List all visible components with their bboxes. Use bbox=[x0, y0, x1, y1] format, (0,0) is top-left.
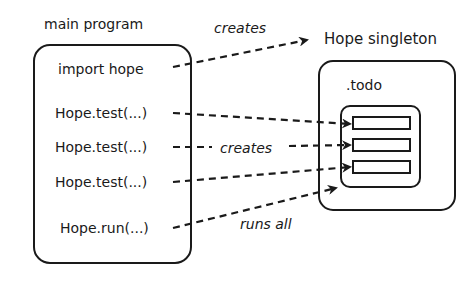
code-line-run: Hope.run(...) bbox=[60, 220, 149, 236]
singleton-title: Hope singleton bbox=[324, 31, 437, 47]
arrow-import-creates bbox=[173, 40, 307, 67]
arrow-test-2b bbox=[289, 145, 350, 146]
todo-label: .todo bbox=[346, 77, 382, 93]
todo-item-3 bbox=[353, 161, 410, 173]
todo-item-2 bbox=[353, 139, 410, 151]
todo-item-1 bbox=[353, 117, 410, 129]
label-creates-top: creates bbox=[214, 20, 266, 36]
main-program-title: main program bbox=[44, 16, 143, 32]
label-runs-all: runs all bbox=[240, 216, 292, 232]
code-line-test-3: Hope.test(...) bbox=[55, 174, 147, 190]
label-creates-middle: creates bbox=[220, 140, 272, 156]
code-line-import: import hope bbox=[58, 61, 144, 77]
code-line-test-1: Hope.test(...) bbox=[55, 105, 147, 121]
arrow-test-1 bbox=[173, 113, 350, 124]
code-line-test-2: Hope.test(...) bbox=[55, 139, 147, 155]
arrow-test-3 bbox=[173, 167, 350, 182]
